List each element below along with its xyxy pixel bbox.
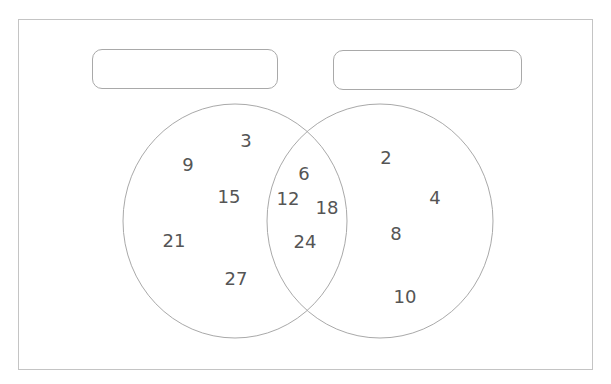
number-intersection: 18: [316, 199, 339, 217]
number-intersection: 6: [298, 165, 309, 183]
number-left-only: 9: [182, 156, 193, 174]
number-intersection: 12: [277, 190, 300, 208]
set-a-circle: [123, 104, 347, 338]
number-intersection: 24: [294, 233, 317, 251]
number-left-only: 15: [218, 188, 241, 206]
number-right-only: 10: [394, 288, 417, 306]
number-right-only: 4: [429, 189, 440, 207]
set-b-circle: [267, 104, 493, 338]
venn-diagram: [0, 0, 611, 384]
number-left-only: 21: [163, 232, 186, 250]
number-left-only: 27: [225, 270, 248, 288]
number-left-only: 3: [240, 132, 251, 150]
number-right-only: 8: [390, 225, 401, 243]
number-right-only: 2: [380, 149, 391, 167]
